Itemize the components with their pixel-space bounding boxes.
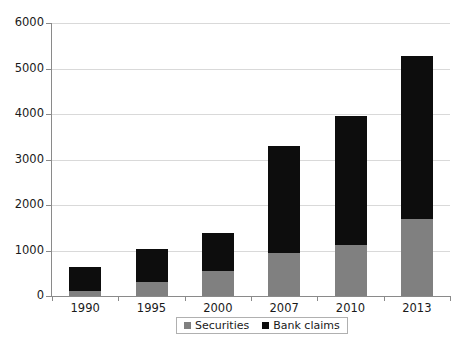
bar-2007	[268, 146, 300, 296]
y-tick-label-wrap: 6000	[0, 17, 44, 29]
bar-2010	[335, 116, 367, 296]
x-tick-label-2007: 2007	[254, 303, 314, 315]
bar-2013	[401, 56, 433, 296]
gridline	[52, 114, 450, 115]
bar-segment-bank-claims-2013	[401, 56, 433, 219]
legend-swatch-icon-bank-claims	[262, 322, 269, 329]
gridline	[52, 251, 450, 252]
x-tick-mark	[450, 296, 451, 301]
x-tick-mark	[317, 296, 318, 301]
y-axis-line	[51, 23, 52, 297]
x-tick-mark	[185, 296, 186, 301]
bar-segment-bank-claims-2010	[335, 116, 367, 245]
bar-segment-securities-2007	[268, 253, 300, 296]
bar-segment-bank-claims-2007	[268, 146, 300, 253]
bar-segment-bank-claims-1995	[136, 249, 168, 283]
legend-label-bank-claims: Bank claims	[273, 320, 339, 331]
x-tick-mark	[384, 296, 385, 301]
y-tick-label: 6000	[2, 17, 44, 29]
y-tick-label-wrap: 1000	[0, 245, 44, 257]
y-tick-label: 4000	[2, 108, 44, 120]
x-tick-label-1995: 1995	[122, 303, 182, 315]
bar-segment-securities-2000	[202, 271, 234, 296]
legend-label-securities: Securities	[195, 320, 249, 331]
y-tick-label-wrap: 0	[0, 290, 44, 302]
bar-segment-securities-1995	[136, 282, 168, 296]
chart-legend: Securities Bank claims	[176, 317, 348, 334]
gridline	[52, 160, 450, 161]
y-tick-label-wrap: 2000	[0, 199, 44, 211]
y-tick-label: 1000	[2, 245, 44, 257]
bar-segment-securities-2013	[401, 219, 433, 296]
x-tick-label-2010: 2010	[321, 303, 381, 315]
bar-segment-bank-claims-1990	[69, 267, 101, 291]
y-tick-label-wrap: 3000	[0, 154, 44, 166]
legend-item-bank-claims: Bank claims	[262, 320, 339, 331]
gridline	[52, 205, 450, 206]
gridline	[52, 69, 450, 70]
plot-area	[52, 23, 450, 296]
chart-figure: 0100020003000400050006000 19901995200020…	[0, 0, 463, 352]
y-tick-label: 0	[2, 290, 44, 302]
y-tick-label-wrap: 5000	[0, 63, 44, 75]
x-tick-label-1990: 1990	[55, 303, 115, 315]
legend-swatch-icon-securities	[184, 322, 191, 329]
x-tick-mark	[52, 296, 53, 301]
bar-2000	[202, 233, 234, 296]
x-tick-label-2000: 2000	[188, 303, 248, 315]
x-tick-mark	[251, 296, 252, 301]
bar-1990	[69, 267, 101, 296]
gridline	[52, 23, 450, 24]
legend-item-securities: Securities	[184, 320, 249, 331]
y-tick-label: 2000	[2, 199, 44, 211]
bar-1995	[136, 249, 168, 296]
y-tick-label-wrap: 4000	[0, 108, 44, 120]
bar-segment-securities-2010	[335, 245, 367, 296]
figure-caption	[8, 343, 458, 352]
x-tick-label-2013: 2013	[387, 303, 447, 315]
y-tick-label: 3000	[2, 154, 44, 166]
x-tick-mark	[118, 296, 119, 301]
y-tick-label: 5000	[2, 63, 44, 75]
bar-segment-bank-claims-2000	[202, 233, 234, 270]
